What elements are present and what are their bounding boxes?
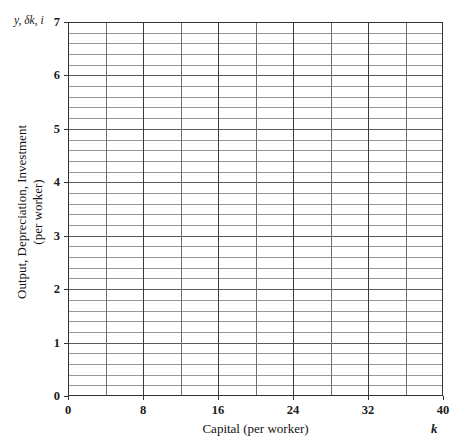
- y-axis-tick-label: 1: [42, 336, 60, 349]
- x-axis-tick-label: 32: [362, 404, 375, 417]
- y-axis-tick-label: 2: [42, 283, 60, 296]
- y-axis-tick-label: 6: [42, 69, 60, 82]
- y-axis-tick-label: 5: [42, 123, 60, 136]
- y-axis-tick-label: 4: [42, 176, 60, 189]
- y-axis-tick-label: 7: [42, 16, 60, 29]
- chart-root: y, δk, i Output, Depreciation, Investmen…: [0, 0, 459, 445]
- x-axis-tick-label: 24: [287, 404, 300, 417]
- y-axis-tick-label: 0: [42, 390, 60, 403]
- axis-tick-marks: [0, 0, 459, 445]
- x-axis-title: Capital (per worker): [68, 421, 443, 437]
- x-axis-tick-label: 8: [140, 404, 146, 417]
- y-axis-tick-label: 3: [42, 229, 60, 242]
- x-axis-tick-label: 0: [65, 404, 71, 417]
- x-axis-tick-label: 40: [437, 404, 450, 417]
- x-axis-tick-label: 16: [212, 404, 225, 417]
- x-axis-symbol: k: [431, 421, 438, 437]
